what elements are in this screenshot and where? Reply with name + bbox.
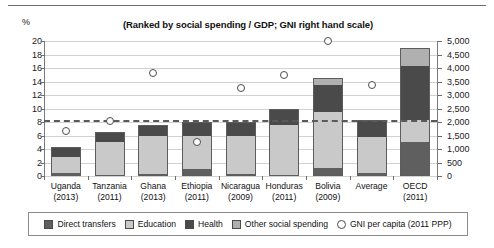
- bar-segment: [400, 66, 430, 120]
- bar-segment: [313, 168, 343, 176]
- bar-segment: [226, 174, 256, 176]
- legend-label: Health: [198, 219, 223, 229]
- left-axis-tick-mark: [41, 109, 45, 110]
- bar-segment: [138, 174, 168, 176]
- right-axis-tick-mark: [438, 176, 442, 177]
- left-axis-tick-label: 0: [16, 171, 42, 181]
- legend-label: Direct transfers: [57, 219, 115, 229]
- bar-oecd: [400, 48, 430, 176]
- right-axis-tick-label: 2,500: [447, 104, 487, 114]
- bar-segment: [313, 85, 343, 112]
- x-axis-tick-mark: [88, 176, 89, 180]
- right-axis-tick-label: 5,000: [447, 36, 487, 46]
- left-axis-tick-label: 10: [16, 104, 42, 114]
- left-axis-tick-label: 6: [16, 131, 42, 141]
- right-axis-tick-mark: [438, 149, 442, 150]
- plot-area: [44, 41, 437, 176]
- legend-circle-icon: [337, 220, 346, 229]
- legend-label: Other social spending: [245, 219, 328, 229]
- gni-marker: [237, 84, 245, 92]
- bar-segment: [400, 142, 430, 176]
- gni-marker: [106, 117, 114, 125]
- x-axis-tick-mark: [350, 176, 351, 180]
- gni-marker: [324, 37, 332, 45]
- left-axis-tick-mark: [41, 136, 45, 137]
- left-axis-tick-mark: [41, 68, 45, 69]
- right-axis-tick-label: 1,500: [447, 131, 487, 141]
- right-axis-tick-label: 4,000: [447, 63, 487, 73]
- x-axis-tick-mark: [306, 176, 307, 180]
- right-axis-tick-mark: [438, 82, 442, 83]
- legend-item[interactable]: Health: [185, 219, 223, 229]
- bar-segment: [51, 157, 81, 173]
- left-axis-tick-label: 4: [16, 144, 42, 154]
- top-divider: [8, 5, 486, 6]
- legend-item[interactable]: GNI per capita (2011 PPP): [337, 219, 452, 229]
- right-axis-tick-label: 3,500: [447, 77, 487, 87]
- right-axis-tick-mark: [438, 41, 442, 42]
- bar-segment: [226, 136, 256, 174]
- right-axis-tick-label: 500: [447, 158, 487, 168]
- bar-segment: [269, 175, 299, 176]
- right-axis-tick-mark: [438, 136, 442, 137]
- bar-ethiopia: [182, 122, 212, 176]
- right-axis-tick-mark: [438, 163, 442, 164]
- gridline: [44, 55, 437, 56]
- gni-marker: [193, 138, 201, 146]
- gni-marker: [280, 71, 288, 79]
- right-axis-tick-label: 0: [447, 171, 487, 181]
- legend-item[interactable]: Direct transfers: [44, 219, 115, 229]
- right-axis-tick-mark: [438, 122, 442, 123]
- chart-legend: Direct transfersEducationHealthOther soc…: [28, 212, 468, 236]
- bar-segment: [269, 125, 299, 174]
- left-axis-tick-mark: [41, 122, 45, 123]
- gni-marker: [368, 81, 376, 89]
- bar-honduras: [269, 109, 299, 176]
- bar-segment: [269, 109, 299, 126]
- right-axis-tick-label: 4,500: [447, 50, 487, 60]
- legend-item[interactable]: Education: [125, 219, 176, 229]
- bar-segment: [138, 125, 168, 136]
- x-axis-tick-mark: [219, 176, 220, 180]
- x-axis-tick-mark: [175, 176, 176, 180]
- bar-ghana: [138, 125, 168, 176]
- gridline: [44, 68, 437, 69]
- bar-segment: [357, 137, 387, 173]
- bar-segment: [357, 173, 387, 176]
- right-axis-tick-mark: [438, 109, 442, 110]
- left-axis-tick-label: 2: [16, 158, 42, 168]
- bar-segment: [182, 122, 212, 136]
- legend-swatch-icon: [232, 220, 241, 229]
- left-axis-tick-mark: [41, 41, 45, 42]
- bar-uganda: [51, 147, 81, 176]
- gridline: [44, 176, 437, 177]
- bar-segment: [95, 132, 125, 142]
- left-axis-tick-mark: [41, 82, 45, 83]
- gridline: [44, 109, 437, 110]
- x-axis-label: OECD(2011): [382, 181, 448, 203]
- bar-tanzania: [95, 132, 125, 176]
- x-axis-label-year: (2011): [382, 192, 448, 203]
- left-axis-unit-label: %: [22, 17, 30, 27]
- left-axis-tick-label: 14: [16, 77, 42, 87]
- left-axis-tick-label: 12: [16, 90, 42, 100]
- chart-figure: % (Ranked by social spending / GDP; GNI …: [0, 0, 494, 248]
- left-axis-tick-mark: [41, 149, 45, 150]
- legend-item[interactable]: Other social spending: [232, 219, 328, 229]
- bar-segment: [95, 175, 125, 176]
- left-axis-tick-label: 16: [16, 63, 42, 73]
- bar-segment: [182, 169, 212, 176]
- x-axis-label-year: (2009): [295, 192, 361, 203]
- left-axis-tick-label: 20: [16, 36, 42, 46]
- right-axis-tick-label: 2,000: [447, 117, 487, 127]
- bar-segment: [51, 173, 81, 176]
- left-axis-tick-mark: [41, 55, 45, 56]
- legend-swatch-icon: [44, 220, 53, 229]
- x-axis-tick-mark: [131, 176, 132, 180]
- right-axis-tick-label: 3,000: [447, 90, 487, 100]
- right-axis-tick-mark: [438, 68, 442, 69]
- x-axis-tick-mark: [44, 176, 45, 180]
- right-axis-tick-mark: [438, 55, 442, 56]
- legend-label: Education: [138, 219, 176, 229]
- x-axis-tick-mark: [393, 176, 394, 180]
